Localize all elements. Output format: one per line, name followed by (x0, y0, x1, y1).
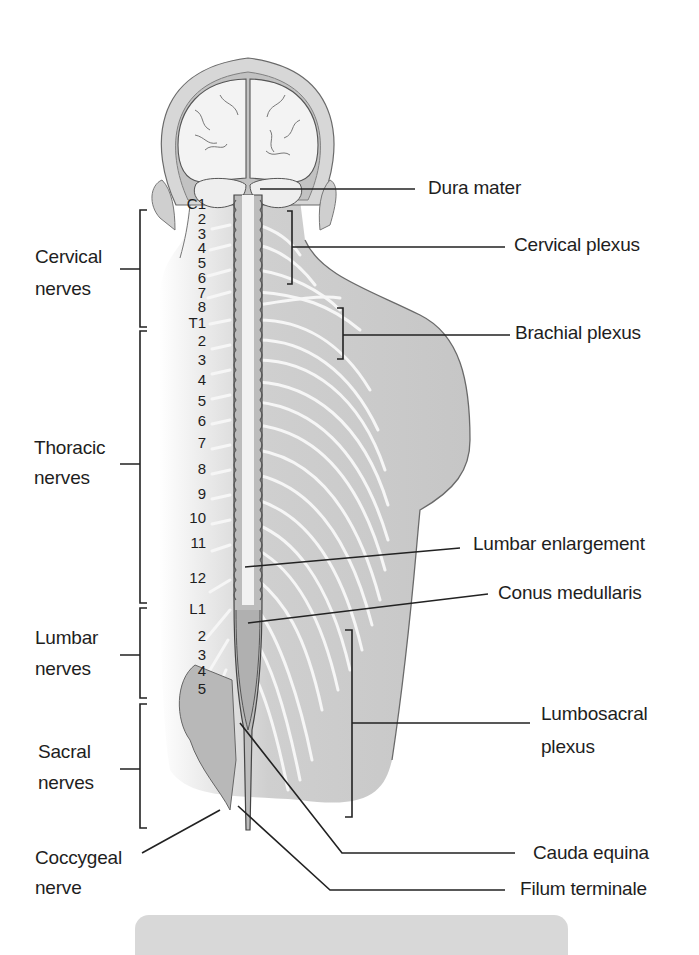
label-filum-terminale: Filum terminale (520, 877, 647, 900)
label-sacral-nerves-line1: Sacral (38, 740, 91, 763)
segment-label: 9 (170, 486, 206, 501)
label-lumbar-enlargement: Lumbar enlargement (473, 532, 645, 555)
segment-label: 4 (170, 372, 206, 387)
thoracic-bracket (120, 331, 147, 603)
label-brachial-plexus: Brachial plexus (515, 321, 641, 344)
label-lumbar-nerves-line2: nerves (35, 657, 91, 680)
segment-label: 3 (170, 352, 206, 367)
segment-label: T1 (170, 315, 206, 330)
label-cervical-nerves-line2: nerves (35, 277, 91, 300)
segment-label: 4 (170, 663, 206, 678)
caption-box (135, 915, 568, 955)
segment-label: 2 (170, 211, 206, 226)
segment-label: 12 (170, 570, 206, 585)
segment-label: L1 (170, 601, 206, 616)
segment-label: 5 (170, 255, 206, 270)
segment-label: 2 (170, 333, 206, 348)
label-coccygeal-nerve-line1: Coccygeal (35, 846, 122, 869)
sacral-bracket (120, 704, 147, 828)
segment-label: 6 (170, 270, 206, 285)
label-dura-mater: Dura mater (428, 176, 521, 199)
label-thoracic-nerves-line2: nerves (34, 466, 90, 489)
segment-label: 5 (170, 681, 206, 696)
label-cauda-equina: Cauda equina (533, 841, 649, 864)
segment-label: 8 (170, 461, 206, 476)
lumbar-bracket (120, 608, 147, 698)
filum-terminale-leader (238, 806, 505, 890)
cervical-bracket (120, 210, 147, 327)
label-lumbar-nerves-line1: Lumbar (35, 626, 98, 649)
segment-label: 4 (170, 240, 206, 255)
label-lumbosacral-plexus-line2: plexus (541, 735, 595, 758)
label-cervical-nerves-line1: Cervical (35, 245, 102, 268)
label-conus-medullaris: Conus medullaris (498, 581, 642, 604)
segment-label: 11 (170, 535, 206, 550)
coccygeal-leader (142, 810, 220, 853)
label-thoracic-nerves-line1: Thoracic (34, 436, 105, 459)
label-sacral-nerves-line2: nerves (38, 771, 94, 794)
label-cervical-plexus: Cervical plexus (514, 233, 640, 256)
segment-label: 7 (170, 435, 206, 450)
segment-label: 2 (170, 628, 206, 643)
segment-label: 6 (170, 413, 206, 428)
segment-label: 8 (170, 299, 206, 314)
segment-label: 10 (170, 510, 206, 525)
label-coccygeal-nerve-line2: nerve (35, 876, 82, 899)
segment-label: 5 (170, 393, 206, 408)
segment-label: C1 (170, 196, 206, 211)
label-lumbosacral-plexus-line1: Lumbosacral (541, 702, 648, 725)
segment-label: 3 (170, 647, 206, 662)
